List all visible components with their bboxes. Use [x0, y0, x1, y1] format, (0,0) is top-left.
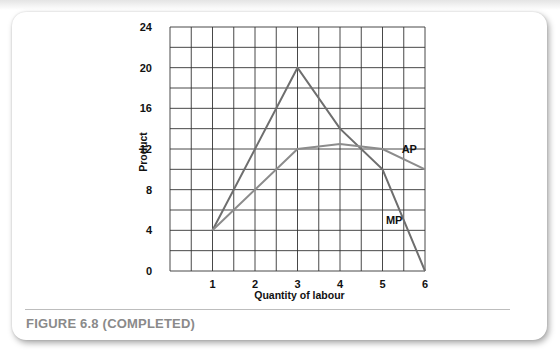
y-tick-label: 4: [146, 224, 153, 236]
y-tick-label: 24: [140, 21, 153, 33]
x-tick-label: 5: [379, 278, 385, 290]
y-tick-label: 8: [146, 184, 152, 196]
x-tick-label: 6: [422, 278, 428, 290]
series-label-mp: MP: [386, 214, 403, 226]
line-chart: 04812162024123456Quantity of labourProdu…: [0, 0, 560, 355]
x-tick-label: 1: [209, 278, 215, 290]
y-axis-label: Product: [137, 132, 149, 172]
y-tick-label: 20: [140, 62, 152, 74]
figure-caption: FIGURE 6.8 (COMPLETED): [26, 316, 195, 331]
series-label-ap: AP: [402, 143, 417, 155]
caption-divider: [25, 309, 510, 310]
y-tick-label: 16: [140, 102, 152, 114]
y-tick-label: 0: [146, 265, 152, 277]
x-axis-label: Quantity of labour: [254, 289, 344, 301]
